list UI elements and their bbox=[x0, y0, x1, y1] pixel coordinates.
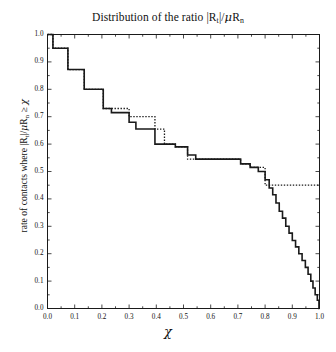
y-axis-label-rn: R bbox=[18, 118, 29, 124]
x-tick-label: 0.7 bbox=[225, 313, 251, 321]
x-tick-label: 0.4 bbox=[143, 313, 169, 321]
y-axis-label-mu: μ bbox=[18, 125, 29, 131]
y-tick-label: 0.0 bbox=[22, 304, 44, 312]
series-dotted-curve bbox=[48, 35, 320, 186]
x-axis-label: χ bbox=[0, 324, 336, 339]
plot-canvas bbox=[0, 0, 336, 352]
y-axis-label: rate of contacts where |Rt|/μRn ≥ χ bbox=[18, 56, 30, 276]
y-tick-label: 0.1 bbox=[22, 277, 44, 285]
axes-frame bbox=[48, 35, 320, 309]
y-axis-label-ge: ≥ bbox=[18, 105, 29, 115]
tick-marks bbox=[48, 35, 320, 309]
chart-figure: Distribution of the ratio |Rt|/μRn 0.00.… bbox=[0, 0, 336, 352]
y-axis-label-chi: χ bbox=[18, 99, 29, 105]
x-tick-label: 0.5 bbox=[171, 313, 197, 321]
y-tick-label: 1.0 bbox=[22, 30, 44, 38]
x-tick-label: 0.0 bbox=[35, 313, 61, 321]
y-axis-label-sub-n: n bbox=[23, 115, 30, 118]
series-solid-curve bbox=[48, 35, 320, 309]
x-tick-label: 0.2 bbox=[89, 313, 115, 321]
x-tick-label: 0.1 bbox=[62, 313, 88, 321]
y-axis-label-bar1: |R bbox=[18, 137, 29, 145]
x-tick-label: 0.6 bbox=[198, 313, 224, 321]
series-layer bbox=[48, 35, 320, 309]
y-axis-label-lead: rate of contacts where bbox=[18, 146, 29, 233]
x-tick-label: 1.0 bbox=[307, 313, 333, 321]
x-tick-label: 0.9 bbox=[279, 313, 305, 321]
x-tick-label: 0.3 bbox=[116, 313, 142, 321]
x-tick-label: 0.8 bbox=[252, 313, 278, 321]
y-axis-label-bar2: |/ bbox=[18, 131, 29, 136]
